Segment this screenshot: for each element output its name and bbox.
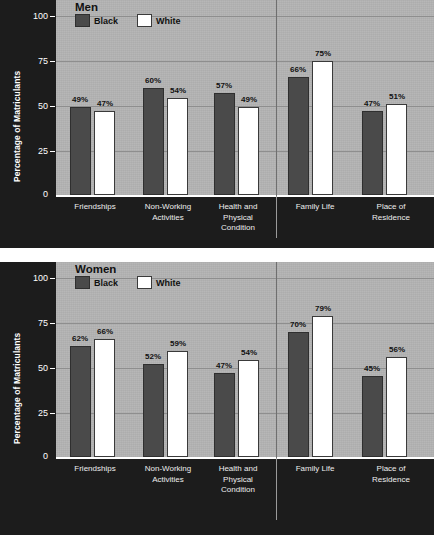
bar-label-women-residence-black: 45% — [360, 364, 384, 373]
category-label-friendships: Friendships — [58, 464, 132, 475]
category-label-residence: Place of Residence — [352, 202, 430, 223]
legend-swatch-black-icon — [75, 14, 90, 27]
y-tick-50: 50 — [14, 101, 48, 111]
bar-label-men-nonworking-black: 60% — [141, 76, 165, 85]
y-tick-0: 0 — [14, 451, 48, 461]
y-tick-mark-75 — [50, 61, 55, 62]
bar-women-nonworking-white — [167, 351, 188, 457]
group-divider-labels — [276, 458, 277, 520]
bar-women-familylife-white — [312, 316, 333, 457]
bar-label-women-health-black: 47% — [212, 361, 236, 370]
bar-men-residence-black — [362, 111, 383, 195]
legend-label-black: Black — [94, 278, 118, 288]
bar-label-men-residence-black: 47% — [360, 99, 384, 108]
bar-label-women-nonworking-black: 52% — [141, 352, 165, 361]
y-tick-75: 75 — [14, 56, 48, 66]
chart-title-men: Men — [75, 1, 98, 13]
legend-swatch-black-icon — [75, 276, 90, 289]
bar-men-residence-white — [386, 104, 407, 195]
bar-men-friendships-black — [70, 107, 91, 195]
group-divider — [276, 0, 277, 196]
category-label-nonworking: Non-Working Activities — [130, 464, 206, 485]
legend-women: Black White — [75, 276, 181, 289]
y-axis-title: Percentage of Matriculants — [12, 333, 22, 444]
bar-women-health-black — [214, 373, 235, 457]
y-tick-mark-100 — [50, 16, 55, 17]
axis-baseline — [56, 195, 434, 197]
gridline-75 — [56, 323, 434, 324]
category-label-residence: Place of Residence — [352, 464, 430, 485]
bar-men-nonworking-black — [143, 88, 164, 195]
axis-baseline — [56, 457, 434, 459]
bar-women-familylife-black — [288, 332, 309, 457]
y-tick-75: 75 — [14, 318, 48, 328]
y-tick-mark-25 — [50, 413, 55, 414]
category-label-health: Health and Physical Condition — [202, 464, 274, 496]
bar-label-men-health-black: 57% — [212, 81, 236, 90]
y-tick-mark-50 — [50, 368, 55, 369]
legend-swatch-white-icon — [137, 14, 152, 27]
bar-label-men-familylife-black: 66% — [286, 65, 310, 74]
bar-label-women-friendships-white: 66% — [93, 327, 117, 336]
bar-women-friendships-black — [70, 346, 91, 457]
bar-men-health-white — [238, 107, 259, 195]
y-tick-mark-25 — [50, 151, 55, 152]
legend-item-black: Black — [75, 276, 118, 289]
category-label-health: Health and Physical Condition — [202, 202, 274, 234]
bar-men-familylife-black — [288, 77, 309, 195]
bar-label-men-residence-white: 51% — [385, 92, 409, 101]
bar-men-nonworking-white — [167, 98, 188, 195]
legend-label-white: White — [156, 278, 181, 288]
bar-women-residence-black — [362, 376, 383, 457]
legend-men: Black White — [75, 14, 181, 27]
bar-women-residence-white — [386, 357, 407, 457]
bar-label-men-familylife-white: 75% — [311, 49, 335, 58]
y-tick-100: 100 — [14, 273, 48, 283]
y-tick-mark-100 — [50, 278, 55, 279]
bar-label-women-health-white: 54% — [237, 348, 261, 357]
legend-item-black: Black — [75, 14, 118, 27]
y-tick-50: 50 — [14, 363, 48, 373]
category-label-familylife: Family Life — [278, 464, 352, 475]
y-axis-title: Percentage of Matriculants — [12, 71, 22, 182]
bar-label-women-familylife-white: 79% — [311, 304, 335, 313]
chart-page: Percentage of Matriculants 100 75 50 25 … — [0, 0, 434, 535]
y-tick-25: 25 — [14, 408, 48, 418]
bar-label-men-health-white: 49% — [237, 95, 261, 104]
legend-item-white: White — [137, 276, 181, 289]
category-label-friendships: Friendships — [58, 202, 132, 213]
y-tick-25: 25 — [14, 146, 48, 156]
bar-label-men-friendships-black: 49% — [68, 95, 92, 104]
bar-label-women-friendships-black: 62% — [68, 334, 92, 343]
bar-label-men-friendships-white: 47% — [93, 99, 117, 108]
bar-label-women-residence-white: 56% — [385, 345, 409, 354]
y-tick-mark-75 — [50, 323, 55, 324]
gridline-75 — [56, 61, 434, 62]
bar-women-health-white — [238, 360, 259, 457]
bar-label-women-nonworking-white: 59% — [166, 339, 190, 348]
bar-label-men-nonworking-white: 54% — [166, 86, 190, 95]
y-tick-100: 100 — [14, 11, 48, 21]
bar-label-women-familylife-black: 70% — [286, 320, 310, 329]
bar-men-friendships-white — [94, 111, 115, 195]
group-divider-labels — [276, 196, 277, 238]
y-tick-mark-50 — [50, 106, 55, 107]
category-label-nonworking: Non-Working Activities — [130, 202, 206, 223]
legend-label-white: White — [156, 16, 181, 26]
legend-swatch-white-icon — [137, 276, 152, 289]
legend-label-black: Black — [94, 16, 118, 26]
bar-women-friendships-white — [94, 339, 115, 457]
bar-women-nonworking-black — [143, 364, 164, 457]
chart-panel-women: Percentage of Matriculants 100 75 50 25 … — [0, 262, 434, 535]
legend-item-white: White — [137, 14, 181, 27]
chart-panel-men: Percentage of Matriculants 100 75 50 25 … — [0, 0, 434, 248]
category-label-familylife: Family Life — [278, 202, 352, 213]
y-tick-0: 0 — [14, 189, 48, 199]
bar-men-health-black — [214, 93, 235, 195]
chart-title-women: Women — [75, 263, 116, 275]
group-divider — [276, 262, 277, 458]
bar-men-familylife-white — [312, 61, 333, 195]
